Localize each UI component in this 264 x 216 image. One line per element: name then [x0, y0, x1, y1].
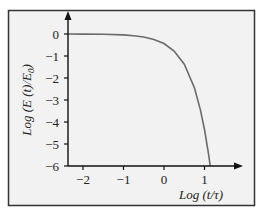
y-tick-label: −4: [45, 115, 59, 130]
y-axis-title-main: Log (E (t)/E: [19, 73, 34, 137]
y-tick-label: −5: [45, 137, 59, 152]
chart: 0−1−2−3−4−5−6−2−101 Log (t/τ) Log (E (t)…: [0, 0, 264, 216]
x-tick-label: −1: [117, 172, 131, 187]
y-axis-title-close: ): [19, 64, 34, 69]
y-tick-label: −1: [45, 49, 59, 64]
y-axis-title: Log (E (t)/E0): [19, 64, 36, 137]
x-tick-label: 0: [161, 172, 168, 187]
x-tick-label: 1: [201, 172, 208, 187]
chart-panel: [9, 11, 255, 206]
y-tick-label: −6: [45, 159, 59, 174]
y-tick-label: −2: [45, 71, 59, 86]
y-tick-label: 0: [53, 27, 60, 42]
y-tick-label: −3: [45, 93, 59, 108]
x-tick-label: −2: [76, 172, 90, 187]
x-axis-title: Log (t/τ): [178, 187, 223, 202]
